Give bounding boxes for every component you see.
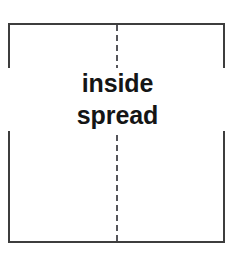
spread-caption: inside spread bbox=[0, 68, 235, 131]
diagram-canvas: inside spread bbox=[0, 0, 235, 258]
center-fold-dashed-line bbox=[116, 25, 118, 241]
spread-outline bbox=[8, 23, 225, 243]
caption-line-inside: inside bbox=[0, 68, 235, 100]
caption-line-spread: spread bbox=[0, 100, 235, 132]
